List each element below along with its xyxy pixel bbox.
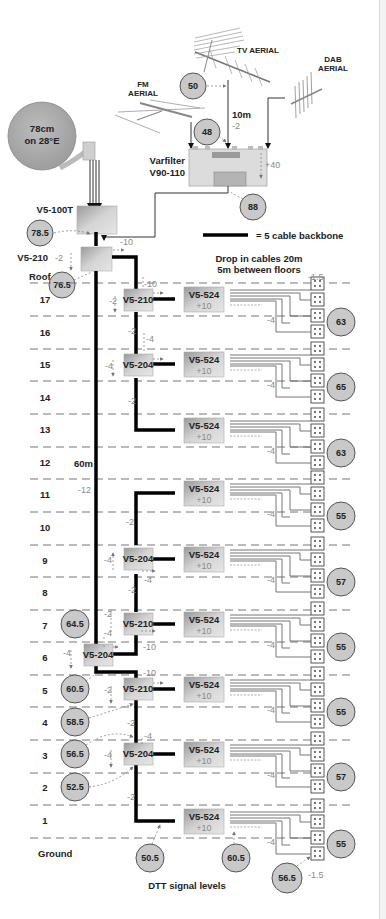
floor-label: 15 (40, 359, 51, 370)
splitter-label: V5-210 (123, 294, 154, 305)
aerial-cable-loss: -2 (232, 121, 240, 131)
amplifier-group: V5-524+10-463 (184, 277, 355, 338)
varfilter-gain: +40 (265, 160, 280, 170)
outlet-level-value: 63 (336, 448, 346, 458)
amplifier-group: V5-524+10-455 (184, 471, 355, 532)
tv-outlet-icon (311, 309, 324, 322)
svg-text:-10: -10 (143, 668, 156, 678)
amplifier-gain: +10 (196, 756, 211, 766)
floor-label: 2 (42, 782, 47, 793)
amplifier-label: V5-524 (189, 354, 220, 365)
outlet-level-value: 63 (336, 317, 346, 327)
svg-text:-4: -4 (144, 731, 152, 741)
outlet-loss-bottom: -1.5 (308, 870, 324, 880)
backbone-legend-label: = 5 cable backbone (256, 230, 343, 241)
tv-outlet-icon (311, 847, 324, 860)
tv-outlet-icon (311, 634, 324, 647)
amplifier-gain: +10 (196, 691, 211, 701)
svg-text:-4: -4 (146, 334, 154, 344)
floor-label: 7 (42, 620, 47, 631)
floor-label: Roof (29, 271, 51, 282)
tv-outlet-icon (311, 748, 324, 761)
tv-outlet-icon (311, 650, 324, 663)
tv-outlet-icon (311, 471, 324, 484)
svg-text:64.5: 64.5 (66, 619, 84, 629)
aerial-cable-length: 10m (232, 109, 251, 120)
splitter-label: V5-204 (83, 649, 114, 660)
drop-loss: -4 (267, 315, 275, 325)
outlet-level-value: 55 (336, 511, 346, 521)
dish-position-label: on 28°E (25, 135, 60, 146)
fm-aerial-label-1: FM (137, 80, 149, 89)
floor-label: 3 (42, 750, 47, 761)
tv-outlet-icon (311, 602, 324, 615)
outlet-level-value: 55 (336, 839, 346, 849)
drop-loss: -4 (267, 446, 275, 456)
tv-outlet-icon (311, 780, 324, 793)
outlet-level-value: 55 (336, 707, 346, 717)
amplifier-gain: +10 (196, 823, 211, 833)
tv-outlet-icon (311, 325, 324, 338)
splitter-label: V5-204 (123, 553, 154, 564)
level-amp-out-value: 60.5 (227, 853, 245, 863)
outlet-level-value: 57 (336, 772, 346, 782)
svg-text:-4: -4 (104, 555, 112, 565)
tv-outlet-icon (311, 732, 324, 745)
tv-outlet-icon (311, 390, 324, 403)
backbone-loss: -12 (78, 485, 91, 495)
outlet-level-value: 55 (336, 642, 346, 652)
floor-label: 8 (42, 587, 47, 598)
floor-label: 13 (40, 424, 51, 435)
v5-210-top-label: V5-210 (17, 252, 48, 263)
floor-label: Ground (38, 848, 72, 859)
splitters: V5-210 V5-204 V5-204 V5-210 V5-204 V5-21… (83, 289, 154, 765)
outlet-level-value: 65 (336, 382, 346, 392)
varfilter-label-1: Varfilter (150, 155, 186, 166)
amplifier-group: V5-524+10-463 (184, 408, 355, 469)
svg-text:-2: -2 (109, 296, 117, 306)
svg-text:-10: -10 (144, 279, 157, 289)
drop-loss: -4 (267, 640, 275, 650)
tv-outlet-icon (311, 424, 324, 437)
amplifier-gain: +10 (196, 432, 211, 442)
tv-outlet-icon (311, 293, 324, 306)
svg-text:-10: -10 (143, 642, 156, 652)
level-varfilter-in-value: 48 (202, 127, 212, 137)
diagram-title: DTT signal levels (148, 880, 226, 891)
dab-aerial-icon (291, 72, 322, 118)
svg-text:-2: -2 (128, 585, 136, 595)
floor-label: 1 (42, 815, 48, 826)
svg-text:-2: -2 (126, 517, 134, 527)
amplifier-group: V5-524+10-465 (184, 342, 355, 403)
floor-label: 4 (42, 717, 48, 728)
floor-label: 14 (40, 392, 51, 403)
amplifier-label: V5-524 (189, 549, 220, 560)
tv-aerial-label: TV AERIAL (237, 46, 279, 55)
tv-outlet-icon (311, 503, 324, 516)
dish-size-label: 78cm (30, 123, 54, 134)
amplifier-label: V5-524 (189, 811, 220, 822)
drop-loss: -4 (267, 705, 275, 715)
floor-label: 11 (40, 489, 51, 500)
tv-outlet-icon (311, 519, 324, 532)
splitter-label: V5-210 (123, 683, 154, 694)
amplifier-label: V5-524 (189, 289, 220, 300)
amplifier-label: V5-524 (189, 420, 220, 431)
svg-text:-2: -2 (127, 792, 135, 802)
floor-label: 17 (40, 294, 51, 305)
varfilter-label-2: V90-110 (150, 167, 185, 178)
tv-outlet-icon (311, 569, 324, 582)
amplifier-group: V5-524+10-457 (184, 732, 355, 793)
outlet-loss-top: -1.5 (308, 272, 324, 282)
floor-labels: Roof 17 16 15 14 13 12 11 10 9 8 7 6 5 4… (29, 271, 72, 859)
amplifier-group: V5-524+10-455 (184, 799, 355, 860)
tv-outlet-icon (311, 764, 324, 777)
tv-outlet-icon (311, 487, 324, 500)
amplifier-group: V5-524+10-455 (184, 602, 355, 663)
tv-outlet-icon (311, 553, 324, 566)
tv-aerial-icon (194, 28, 270, 86)
v5-100t-label: V5-100T (37, 204, 74, 215)
tv-outlet-icon (311, 618, 324, 631)
floor-label: 9 (42, 555, 47, 566)
